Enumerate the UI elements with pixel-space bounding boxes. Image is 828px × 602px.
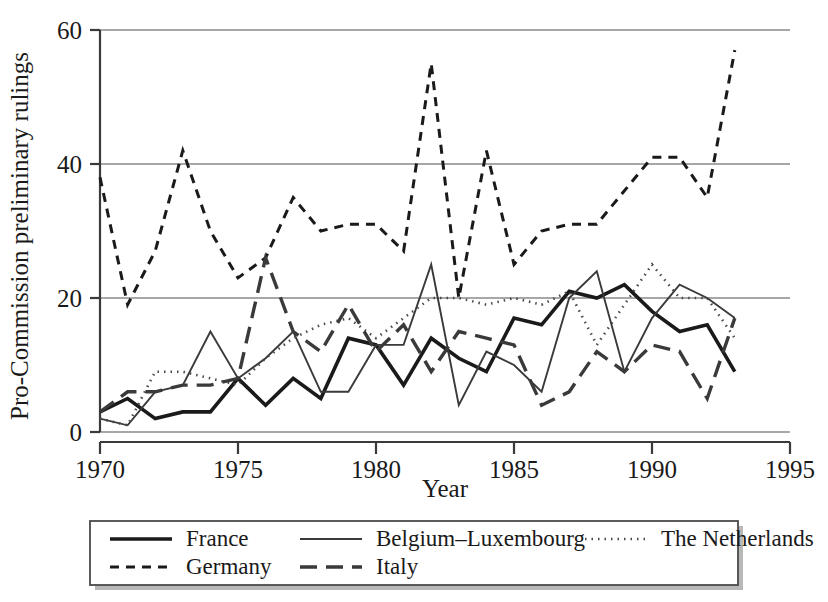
chart-figure: 0204060 197019751980198519901995 Year Pr…	[0, 0, 828, 602]
y-tick-label-20: 20	[57, 285, 82, 312]
x-tick-label-1995: 1995	[765, 456, 815, 483]
x-tick-label-1970: 1970	[75, 456, 125, 483]
y-tick-label-0: 0	[70, 419, 83, 446]
x-tick-label-1990: 1990	[627, 456, 677, 483]
legend-label-italy: Italy	[376, 554, 419, 579]
legend-label-belgium-luxembourg: Belgium–Luxembourg	[376, 526, 586, 551]
x-axis-title: Year	[422, 475, 469, 502]
legend-label-germany: Germany	[186, 554, 272, 579]
line-chart-svg: 0204060 197019751980198519901995 Year Pr…	[0, 0, 828, 602]
y-axis-title: Pro-Commission preliminary rulings	[6, 52, 33, 420]
y-tick-label-60: 60	[57, 17, 82, 44]
figure-background	[0, 0, 828, 602]
legend-label-france: France	[186, 526, 249, 551]
legend-label-the-netherlands: The Netherlands	[661, 526, 814, 551]
y-tick-label-40: 40	[57, 151, 82, 178]
x-tick-label-1980: 1980	[351, 456, 401, 483]
x-tick-label-1975: 1975	[213, 456, 263, 483]
x-tick-label-1985: 1985	[489, 456, 539, 483]
chart-legend: FranceBelgium–LuxembourgThe NetherlandsG…	[90, 521, 814, 590]
